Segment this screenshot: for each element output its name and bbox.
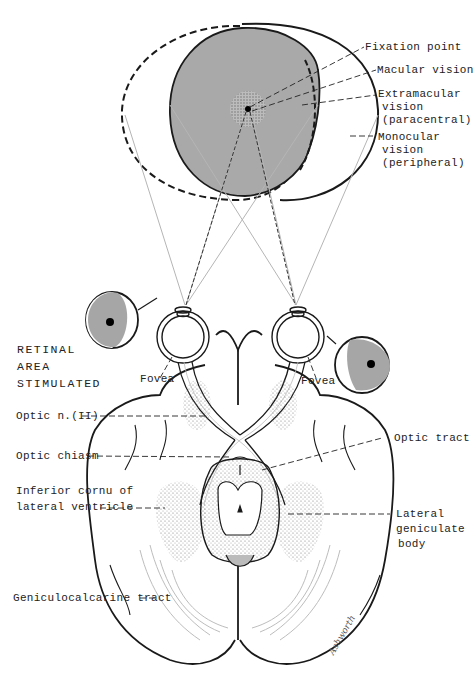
label-monocular-1: Monocular: [378, 131, 440, 144]
retina-left: [86, 292, 157, 348]
label-optic-chiasm: Optic chiasm: [16, 450, 99, 463]
label-extramacular-2: vision: [382, 101, 423, 114]
label-area: AREA: [17, 358, 51, 375]
label-monocular-2: vision: [382, 144, 423, 157]
label-inferior-cornu-2: lateral ventricle: [16, 501, 133, 514]
label-fovea-right: Fovea: [301, 375, 336, 388]
label-lateral-geniculate-2: geniculate: [396, 523, 465, 536]
eyeball-left: [157, 307, 209, 363]
label-extramacular-1: Extramacular: [378, 88, 461, 101]
label-fixation-point: Fixation point: [365, 41, 462, 54]
visual-fields: [122, 24, 378, 201]
label-inferior-cornu-1: Inferior cornu of: [16, 485, 133, 498]
label-monocular-3: (peripheral): [382, 157, 465, 170]
label-extramacular-3: (paracentral): [382, 114, 472, 127]
label-fovea-left: Fovea: [140, 373, 175, 386]
label-geniculocalcarine-tract: Geniculocalcarine tract: [13, 592, 172, 605]
label-optic-tract: Optic tract: [394, 432, 470, 445]
retina-right: [327, 336, 390, 393]
label-lateral-geniculate-3: body: [398, 538, 426, 551]
label-lateral-geniculate-1: Lateral: [396, 508, 444, 521]
label-macular-vision: Macular vision: [377, 64, 474, 77]
label-retinal: RETINAL: [17, 341, 76, 358]
label-optic-nerve: Optic n.(II): [16, 410, 99, 423]
label-stimulated: STIMULATED: [17, 375, 101, 392]
eyeball-right: [272, 307, 324, 363]
